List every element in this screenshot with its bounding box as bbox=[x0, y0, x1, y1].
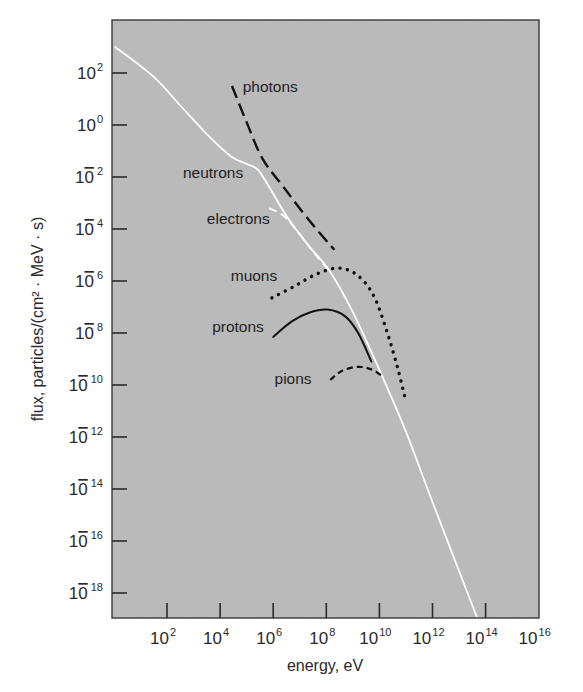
y-tick-label: 106 bbox=[75, 269, 103, 291]
x-tick-label: 1012 bbox=[412, 626, 444, 648]
x-tick-label: 104 bbox=[203, 626, 229, 648]
y-axis-tick-labels: 10210010210410610810101012101410161018 bbox=[69, 61, 103, 603]
x-axis-tick-labels: 1021041061081010101210141016 bbox=[150, 626, 551, 648]
muons-label: muons bbox=[231, 267, 278, 284]
neutrons-label: neutrons bbox=[183, 164, 244, 181]
y-tick-label: 1010 bbox=[69, 373, 103, 395]
x-tick-label: 1016 bbox=[519, 626, 551, 648]
plot-area: neutronsphotonselectronsmuonsprotonspion… bbox=[112, 20, 539, 619]
y-tick-label: 102 bbox=[75, 165, 103, 187]
x-tick-label: 1014 bbox=[466, 626, 498, 648]
x-axis-title: energy, eV bbox=[287, 657, 364, 674]
y-tick-label: 1012 bbox=[69, 425, 103, 447]
y-tick-label: 102 bbox=[77, 61, 103, 83]
y-tick-label: 1018 bbox=[69, 581, 103, 603]
x-tick-label: 1010 bbox=[359, 626, 391, 648]
y-tick-label: 1014 bbox=[69, 477, 103, 499]
pions-label: pions bbox=[275, 370, 312, 387]
y-tick-label: 1016 bbox=[69, 529, 103, 551]
x-tick-label: 102 bbox=[150, 626, 176, 648]
electrons-label: electrons bbox=[207, 210, 270, 227]
flux-energy-chart: neutronsphotonselectronsmuonsprotonspion… bbox=[0, 0, 583, 692]
y-axis-title: flux, particles/(cm² · MeV · s) bbox=[29, 217, 46, 421]
protons-label: protons bbox=[212, 318, 264, 335]
y-tick-label: 108 bbox=[75, 321, 103, 343]
photons-label: photons bbox=[243, 78, 298, 95]
plot-grain bbox=[112, 20, 539, 618]
x-tick-label: 106 bbox=[256, 626, 282, 648]
x-tick-label: 108 bbox=[309, 626, 335, 648]
y-tick-label: 100 bbox=[77, 113, 103, 135]
y-tick-label: 104 bbox=[75, 217, 103, 239]
